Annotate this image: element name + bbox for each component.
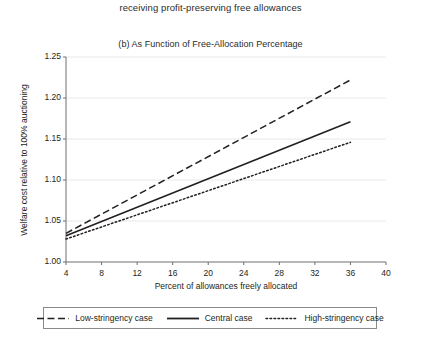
legend-item: Low-stringency case (36, 314, 152, 323)
x-tick-label: 40 (374, 268, 398, 278)
figure-panel-b: receiving profit-preserving free allowan… (0, 0, 421, 340)
axis-lines (66, 57, 386, 262)
legend-swatch-dashed (36, 314, 70, 323)
y-tick-label: 1.00 (29, 256, 61, 266)
gridlines (66, 57, 386, 221)
x-tick-label: 32 (303, 268, 327, 278)
y-tick-label: 1.05 (29, 215, 61, 225)
y-tick-label: 1.20 (29, 92, 61, 102)
x-tick-label: 4 (54, 268, 78, 278)
legend-swatch-solid (166, 314, 200, 323)
x-tick-label: 24 (232, 268, 256, 278)
x-tick-label: 20 (196, 268, 220, 278)
data-series-lines (66, 80, 350, 239)
x-axis-label: Percent of allowances freely allocated (66, 281, 386, 291)
x-tick-label: 28 (267, 268, 291, 278)
legend-label: Low-stringency case (75, 314, 152, 323)
legend-swatch-dotted (265, 314, 299, 323)
x-tick-label: 8 (90, 268, 114, 278)
x-tick-label: 12 (125, 268, 149, 278)
legend-label: High-stringency case (304, 314, 383, 323)
y-tick-label: 1.15 (29, 133, 61, 143)
x-tick-label: 36 (338, 268, 362, 278)
legend-item: High-stringency case (265, 314, 383, 323)
y-tick-label: 1.25 (29, 51, 61, 61)
legend-label: Central case (205, 314, 253, 323)
chart-legend: Low-stringency caseCentral caseHigh-stri… (43, 307, 377, 329)
y-axis-label: Welfare cost relative to 100% auctioning (19, 60, 29, 260)
y-tick-label: 1.10 (29, 174, 61, 184)
x-tick-label: 16 (161, 268, 185, 278)
legend-item: Central case (166, 314, 253, 323)
